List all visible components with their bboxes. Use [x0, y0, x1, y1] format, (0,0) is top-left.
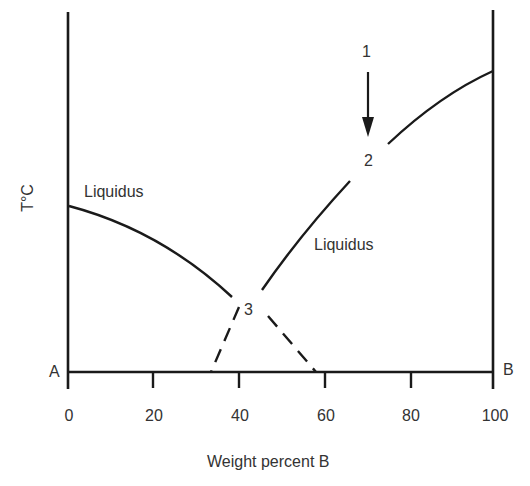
liquidus-label-left: Liquidus: [84, 184, 144, 200]
x-tick-label-80: 80: [402, 408, 420, 424]
endmember-b-label: B: [503, 362, 514, 378]
liquidus-left-curve: [69, 206, 232, 297]
liquidus-right-curve-upper: [388, 71, 493, 144]
x-tick-label-40: 40: [231, 408, 249, 424]
point-2-label: 2: [364, 153, 373, 169]
x-ticks: [153, 372, 411, 388]
x-axis-label: Weight percent B: [207, 454, 329, 470]
y-axis-label: T°C: [19, 184, 37, 212]
phase-diagram: [0, 0, 530, 486]
x-tick-label-20: 20: [145, 408, 163, 424]
liquidus-label-right: Liquidus: [314, 237, 374, 253]
dashed-extension-right: [268, 316, 316, 372]
point-1-label: 1: [362, 44, 371, 60]
dashed-extension-left: [211, 307, 239, 372]
x-tick-label-60: 60: [317, 408, 335, 424]
cooling-arrow-head-icon: [362, 117, 374, 137]
x-tick-label-0: 0: [65, 408, 74, 424]
endmember-a-label: A: [49, 364, 60, 380]
point-3-label: 3: [244, 302, 253, 318]
x-tick-label-100: 100: [482, 408, 509, 424]
